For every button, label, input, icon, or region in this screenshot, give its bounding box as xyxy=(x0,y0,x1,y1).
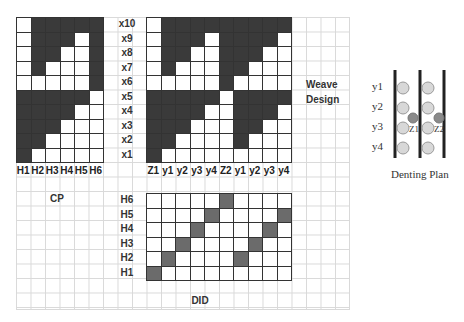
cp-column-label: H2 xyxy=(31,163,46,178)
weave-cell xyxy=(220,18,235,33)
weave-cell xyxy=(220,62,235,77)
denting-y-label: y4 xyxy=(372,140,383,152)
cp-cell xyxy=(75,105,90,120)
cp-cell xyxy=(90,33,105,48)
weave-cell xyxy=(234,62,249,77)
cp-cell xyxy=(46,76,61,91)
warp-y-circle xyxy=(397,102,409,114)
weave-cell xyxy=(220,134,235,149)
row-label: x5 xyxy=(112,90,142,105)
weave-cell xyxy=(278,47,293,62)
did-cell xyxy=(278,252,293,267)
did-cell xyxy=(278,267,293,282)
cp-cell xyxy=(17,149,32,164)
weave-cell xyxy=(191,47,206,62)
did-cell xyxy=(249,238,264,253)
did-cell xyxy=(147,194,162,209)
did-cell xyxy=(176,194,191,209)
weave-cell xyxy=(176,47,191,62)
cp-column-label: H1 xyxy=(16,163,31,178)
weave-cell xyxy=(249,47,264,62)
did-cell xyxy=(263,238,278,253)
did-cell xyxy=(278,194,293,209)
did-cell xyxy=(191,194,206,209)
weave-cell xyxy=(176,120,191,135)
did-cell xyxy=(162,252,177,267)
cp-cell xyxy=(90,62,105,77)
did-cell xyxy=(191,267,206,282)
cp-cell xyxy=(75,91,90,106)
cp-cell xyxy=(17,18,32,33)
did-cell xyxy=(176,252,191,267)
weave-cell xyxy=(205,76,220,91)
weave-cell xyxy=(205,134,220,149)
weave-cell xyxy=(249,105,264,120)
row-label: x6 xyxy=(112,75,142,90)
cp-cell xyxy=(90,91,105,106)
weave-column-label: y1 xyxy=(161,163,176,178)
weave-column-label: y4 xyxy=(277,163,292,178)
weave-cell xyxy=(205,105,220,120)
weave-cell xyxy=(278,149,293,164)
weave-cell xyxy=(249,120,264,135)
cp-cell xyxy=(32,134,47,149)
weave-cell xyxy=(162,105,177,120)
weave-cell xyxy=(263,47,278,62)
weave-cell xyxy=(162,47,177,62)
weave-cell xyxy=(249,149,264,164)
did-cell xyxy=(162,267,177,282)
cp-cell xyxy=(90,47,105,62)
weave-column-label: Z2 xyxy=(219,163,234,178)
did-cell xyxy=(162,209,177,224)
cp-cell xyxy=(17,120,32,135)
weave-cell xyxy=(278,33,293,48)
did-cell xyxy=(234,252,249,267)
row-label: x1 xyxy=(112,148,142,163)
weave-cell xyxy=(191,18,206,33)
weave-cell xyxy=(220,91,235,106)
cp-cell xyxy=(61,62,76,77)
did-cell xyxy=(205,223,220,238)
cp-cell xyxy=(90,76,105,91)
cp-column-label: H3 xyxy=(45,163,60,178)
weave-cell xyxy=(263,18,278,33)
did-cell xyxy=(249,267,264,282)
cp-cell xyxy=(32,76,47,91)
did-row-label: H3 xyxy=(112,237,142,252)
weave-cell xyxy=(147,134,162,149)
weave-design-grid xyxy=(146,17,292,163)
cp-cell xyxy=(90,149,105,164)
weave-cell xyxy=(234,149,249,164)
weave-cell xyxy=(263,134,278,149)
did-row-label: H4 xyxy=(112,222,142,237)
warp-y-circle xyxy=(422,122,434,134)
weave-cell xyxy=(249,33,264,48)
did-cell xyxy=(220,267,235,282)
weave-cell xyxy=(278,62,293,77)
did-cell xyxy=(220,194,235,209)
did-cell xyxy=(220,223,235,238)
did-cell xyxy=(263,267,278,282)
cp-cell xyxy=(90,134,105,149)
did-cell xyxy=(234,267,249,282)
cp-cell xyxy=(61,134,76,149)
weave-cell xyxy=(176,62,191,77)
cp-cell xyxy=(75,134,90,149)
weave-column-label: Z1 xyxy=(146,163,161,178)
weave-cell xyxy=(234,33,249,48)
weave-cell xyxy=(234,120,249,135)
cp-cell xyxy=(75,62,90,77)
weave-title-line2: Design xyxy=(306,93,339,108)
cp-cell xyxy=(61,149,76,164)
cp-cell xyxy=(17,91,32,106)
weave-column-label: y3 xyxy=(190,163,205,178)
warp-y-circle xyxy=(422,142,434,154)
weave-cell xyxy=(263,105,278,120)
cp-cell xyxy=(46,91,61,106)
weave-cell xyxy=(205,91,220,106)
weave-cell xyxy=(205,149,220,164)
row-label: x7 xyxy=(112,61,142,76)
did-cell xyxy=(263,194,278,209)
weave-cell xyxy=(162,120,177,135)
weave-cell xyxy=(249,18,264,33)
